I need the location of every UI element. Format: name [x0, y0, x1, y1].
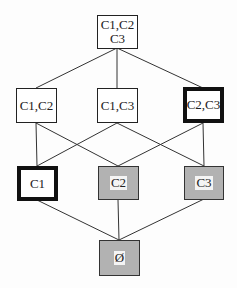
node-label: C3 — [195, 176, 212, 190]
edge-line — [36, 48, 117, 88]
node-label: C2,C3 — [187, 98, 221, 112]
node-empty-set: Ø — [99, 240, 140, 276]
node-label: Ø — [114, 251, 125, 265]
lattice-diagram: C1,C2 C3 C1,C2 C1,C3 C2,C3 C1 C2 C3 Ø — [0, 0, 237, 288]
edge-line — [119, 199, 204, 240]
node-c1-c2: C1,C2 — [16, 88, 57, 123]
node-label: C2 — [110, 176, 127, 190]
node-label: C1,C2 C3 — [101, 18, 135, 46]
edge-line — [203, 123, 204, 166]
edge-line — [118, 200, 119, 240]
node-c1-c3: C1,C3 — [97, 88, 138, 123]
edge-line — [117, 48, 203, 88]
node-label: C1,C2 — [20, 99, 54, 113]
edge-line — [37, 200, 119, 240]
node-label: C1,C3 — [101, 99, 135, 113]
node-c3: C3 — [184, 166, 224, 200]
node-c2-c3: C2,C3 — [183, 87, 224, 123]
node-c1: C1 — [17, 166, 58, 201]
node-c2: C2 — [98, 166, 139, 200]
node-c1-c2-c3: C1,C2 C3 — [97, 15, 138, 49]
node-label: C1 — [30, 177, 45, 191]
edge-line — [36, 123, 37, 166]
